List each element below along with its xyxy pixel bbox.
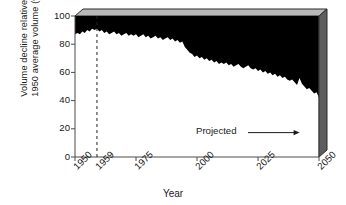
x-tick-label: 1959 xyxy=(93,149,116,172)
chart-figure: Volume decline relative to 1950 average … xyxy=(0,0,346,205)
x-tick-label: 1950 xyxy=(71,149,94,172)
x-tick-label: 1975 xyxy=(132,149,155,172)
x-tick-label: 2000 xyxy=(193,149,216,172)
x-axis-title: Year xyxy=(0,188,346,199)
x-tick-label: 2050 xyxy=(315,149,338,172)
x-tick-label: 2025 xyxy=(254,149,277,172)
x-axis-tick-labels: 195019591975200020252050 xyxy=(0,0,346,205)
